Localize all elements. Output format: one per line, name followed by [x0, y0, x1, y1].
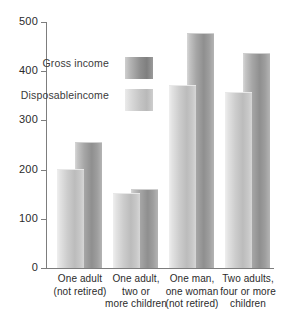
y-axis-tick-label: 200 [4, 163, 38, 175]
bar-chart: 0100200300400500 Gross income Disposable… [0, 0, 281, 321]
legend-label-disposable-income: Disposableincome [17, 89, 109, 102]
y-axis-tick-label: 300 [4, 113, 38, 125]
y-axis-tick-label: 0 [4, 261, 38, 273]
legend-label-gross-income: Gross income [17, 57, 109, 70]
chart-legend: Gross income Disposableincome [52, 57, 147, 121]
bar-disposable-income [113, 193, 140, 268]
x-axis-category-label: One man,one woman(not retired) [161, 273, 223, 311]
y-axis-tick-label: 100 [4, 212, 38, 224]
bar-group [169, 22, 215, 268]
disposable-income-swatch-icon [125, 89, 153, 111]
bar-group [225, 22, 271, 268]
bar-disposable-income [57, 169, 84, 268]
x-axis-category-label: Two adults,four or morechildren [217, 273, 279, 311]
gross-income-swatch-icon [125, 57, 153, 79]
x-axis-line [46, 268, 274, 269]
legend-item-disposable-income: Disposableincome [52, 89, 147, 115]
y-axis-tick-label: 500 [4, 15, 38, 27]
bar-disposable-income [225, 92, 252, 268]
x-axis-category-label: One adult(not retired) [49, 273, 111, 298]
bar-disposable-income [169, 85, 196, 268]
x-axis-category-label: One adult,two ormore children [105, 273, 167, 311]
x-axis-category-labels: One adult(not retired)One adult,two ormo… [47, 273, 275, 321]
legend-item-gross-income: Gross income [52, 57, 147, 83]
y-axis-tick-mark [41, 268, 47, 269]
